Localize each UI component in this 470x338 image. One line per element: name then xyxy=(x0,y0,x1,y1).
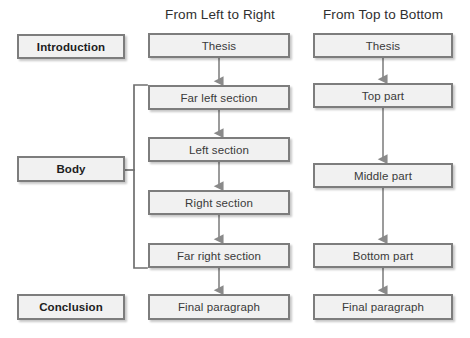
node-ltr-thesis[interactable]: Thesis xyxy=(148,33,290,58)
node-conclusion[interactable]: Conclusion xyxy=(17,294,125,320)
essay-structure-diagram: From Left to Right From Top to Bottom xyxy=(0,0,470,338)
node-ltr-left-section[interactable]: Left section xyxy=(148,137,290,162)
node-ttb-final-paragraph[interactable]: Final paragraph xyxy=(313,294,453,320)
node-body[interactable]: Body xyxy=(17,156,125,182)
node-ttb-bottom-part[interactable]: Bottom part xyxy=(313,243,453,268)
node-ltr-far-right-section[interactable]: Far right section xyxy=(148,243,290,268)
node-introduction[interactable]: Introduction xyxy=(17,34,125,59)
column-header-left-to-right: From Left to Right xyxy=(150,7,290,22)
body-bracket xyxy=(125,85,147,268)
node-ttb-middle-part[interactable]: Middle part xyxy=(313,163,453,188)
node-ltr-final-paragraph[interactable]: Final paragraph xyxy=(148,294,290,320)
node-ltr-far-left-section[interactable]: Far left section xyxy=(148,85,290,110)
column-header-top-to-bottom: From Top to Bottom xyxy=(313,7,453,22)
node-ltr-right-section[interactable]: Right section xyxy=(148,190,290,215)
node-ttb-thesis[interactable]: Thesis xyxy=(313,33,453,58)
node-ttb-top-part[interactable]: Top part xyxy=(313,83,453,108)
bracket-spine xyxy=(134,85,147,268)
